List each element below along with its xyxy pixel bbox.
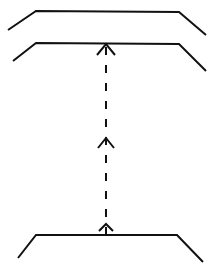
diagram-svg bbox=[0, 0, 214, 270]
bottom-surface-line bbox=[18, 235, 203, 262]
diagram-canvas bbox=[0, 0, 214, 270]
top-surface-line bbox=[8, 11, 206, 35]
